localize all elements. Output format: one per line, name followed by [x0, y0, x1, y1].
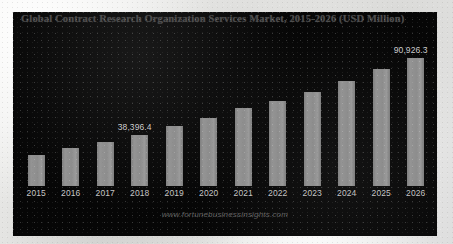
bar-rect-2022 — [269, 101, 286, 186]
bar-rect-2017 — [97, 142, 114, 186]
x-tick-2026: 2026 — [399, 188, 434, 198]
bar-rect-2023 — [304, 92, 321, 186]
bar-rect-2021 — [235, 108, 252, 186]
x-tick-2017: 2017 — [88, 188, 123, 198]
x-tick-2021: 2021 — [226, 188, 261, 198]
x-tick-2015: 2015 — [19, 188, 54, 198]
bar-rect-2016 — [62, 148, 79, 186]
bar-2019 — [166, 42, 183, 186]
bar-2021 — [235, 42, 252, 186]
x-tick-2020: 2020 — [192, 188, 227, 198]
bar-rect-2024 — [338, 81, 355, 186]
chart-title: Global Contract Research Organization Se… — [21, 13, 431, 24]
bar-value-label-2018: 38,396.4 — [118, 122, 152, 132]
bar-2022 — [269, 42, 286, 186]
bar-rect-2025 — [373, 69, 390, 186]
bar-rect-2019 — [166, 126, 183, 186]
bar-2023 — [304, 42, 321, 186]
x-tick-2018: 2018 — [123, 188, 158, 198]
bar-2016 — [62, 42, 79, 186]
x-tick-2022: 2022 — [261, 188, 296, 198]
chart-panel: Global Contract Research Organization Se… — [13, 12, 437, 236]
watermark: www.fortunebusinessinsights.com — [13, 210, 437, 219]
bar-2024 — [338, 42, 355, 186]
bar-rect-2026 — [407, 58, 424, 186]
x-tick-2024: 2024 — [330, 188, 365, 198]
x-tick-2023: 2023 — [295, 188, 330, 198]
x-tick-2016: 2016 — [54, 188, 89, 198]
bar-2017 — [97, 42, 114, 186]
bar-2015 — [28, 42, 45, 186]
bar-2026 — [407, 42, 424, 186]
bar-2018 — [131, 42, 148, 186]
bar-rect-2020 — [200, 118, 217, 186]
bar-value-label-2026: 90,926.3 — [394, 45, 428, 55]
bar-2025 — [373, 42, 390, 186]
chart-screenshot: Global Contract Research Organization Se… — [0, 0, 453, 244]
x-tick-2019: 2019 — [157, 188, 192, 198]
bar-rect-2015 — [28, 155, 45, 186]
bar-rect-2018 — [131, 135, 148, 186]
x-tick-2025: 2025 — [364, 188, 399, 198]
x-axis: 2015201620172018201920202021202220232024… — [19, 188, 433, 204]
bar-2020 — [200, 42, 217, 186]
plot-area: 38,396.490,926.3 — [19, 42, 433, 186]
